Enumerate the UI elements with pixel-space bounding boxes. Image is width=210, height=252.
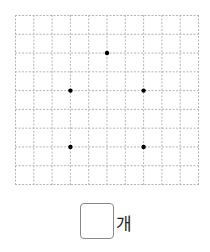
dot-grid	[15, 15, 199, 185]
grid-lines	[15, 15, 199, 185]
unit-label: 개	[116, 216, 132, 233]
grid-point	[68, 145, 72, 149]
answer-area: 개	[80, 203, 132, 239]
grid-point	[141, 88, 145, 92]
answer-input-box[interactable]	[80, 203, 114, 239]
grid-point	[105, 51, 109, 55]
grid-point	[68, 88, 72, 92]
grid-point	[141, 145, 145, 149]
